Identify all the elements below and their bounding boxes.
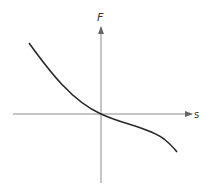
force-curve: [29, 43, 177, 152]
force-displacement-diagram: F s: [0, 0, 209, 191]
s-axis-label: s: [194, 109, 199, 120]
f-axis-label: F: [97, 11, 104, 24]
